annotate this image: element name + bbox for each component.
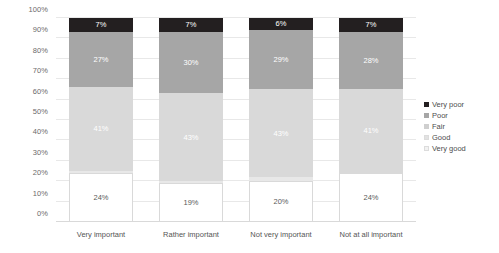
stacked-bar-chart: 0%10%20%30%40%50%60%70%80%90%100% 7%27%4… xyxy=(0,0,499,253)
legend-color-swatch xyxy=(424,113,429,118)
y-axis-tick-label: 60% xyxy=(33,86,48,95)
plot-area: 7%27%41%24%7%30%43%19%6%29%43%20%7%28%41… xyxy=(56,18,416,222)
x-axis-category-label: Rather important xyxy=(163,230,219,239)
bar-segment-fair[interactable]: 41% xyxy=(339,89,403,173)
x-axis-category-labels: Very importantRather importantNot very i… xyxy=(56,230,416,246)
bar-segment-fair[interactable]: 43% xyxy=(159,93,223,181)
legend-color-swatch xyxy=(424,124,429,129)
bar-segment-value-label: 43% xyxy=(273,130,288,138)
legend-item[interactable]: Good xyxy=(424,132,496,143)
bar-segment-very-poor[interactable]: 7% xyxy=(159,18,223,32)
bar-group[interactable]: 7%27%41%24% xyxy=(69,18,133,222)
y-axis-tick-label: 30% xyxy=(33,147,48,156)
legend-item-label: Good xyxy=(432,134,450,142)
bar-segment-very-poor[interactable]: 7% xyxy=(69,18,133,32)
bar-segment-value-label: 28% xyxy=(363,57,378,65)
y-axis: 0%10%20%30%40%50%60%70%80%90%100% xyxy=(0,18,52,222)
y-axis-tick-label: 40% xyxy=(33,127,48,136)
bar-series-container: 7%27%41%24%7%30%43%19%6%29%43%20%7%28%41… xyxy=(56,18,416,222)
bar-group[interactable]: 7%28%41%24% xyxy=(339,18,403,222)
bar-segment-value-label: 7% xyxy=(366,21,377,29)
x-axis-category-label: Not at all important xyxy=(340,230,403,239)
legend-item[interactable]: Very good xyxy=(424,143,496,154)
y-axis-tick-label: 50% xyxy=(33,107,48,116)
bar-segment-value-label: 41% xyxy=(93,125,108,133)
bar-segment-value-label: 6% xyxy=(276,20,287,28)
x-axis-category-label: Very important xyxy=(77,230,125,239)
bar-segment-poor[interactable]: 30% xyxy=(159,32,223,93)
bar-segment-value-label: 20% xyxy=(273,198,288,206)
y-axis-tick-label: 70% xyxy=(33,66,48,75)
bar-segment-value-label: 30% xyxy=(183,59,198,67)
bar-segment-poor[interactable]: 29% xyxy=(249,30,313,89)
stacked-bar[interactable]: 7%28%41%24% xyxy=(339,18,403,222)
y-axis-tick-label: 0% xyxy=(37,209,48,218)
bar-segment-very-good[interactable]: 24% xyxy=(339,173,403,222)
stacked-bar[interactable]: 7%30%43%19% xyxy=(159,18,223,222)
bar-segment-poor[interactable]: 28% xyxy=(339,32,403,89)
legend: Very poorPoorFairGoodVery good xyxy=(424,99,496,154)
bar-segment-very-poor[interactable]: 7% xyxy=(339,18,403,32)
bar-segment-value-label: 27% xyxy=(93,56,108,64)
bar-segment-value-label: 29% xyxy=(273,56,288,64)
bar-segment-value-label: 43% xyxy=(183,134,198,142)
y-axis-tick-label: 100% xyxy=(28,5,48,14)
legend-color-swatch xyxy=(424,146,429,151)
bar-segment-very-good[interactable]: 24% xyxy=(69,173,133,222)
y-axis-tick-label: 80% xyxy=(33,45,48,54)
legend-color-swatch xyxy=(424,135,429,140)
legend-item-label: Very poor xyxy=(432,101,464,109)
stacked-bar[interactable]: 7%27%41%24% xyxy=(69,18,133,222)
legend-item[interactable]: Fair xyxy=(424,121,496,132)
bar-segment-value-label: 24% xyxy=(363,194,378,202)
bar-segment-value-label: 7% xyxy=(186,21,197,29)
x-axis-category-label: Not very important xyxy=(250,230,311,239)
bar-segment-value-label: 7% xyxy=(96,21,107,29)
legend-item-label: Fair xyxy=(432,123,445,131)
y-axis-tick-label: 90% xyxy=(33,25,48,34)
y-axis-tick-label: 20% xyxy=(33,168,48,177)
legend-item[interactable]: Poor xyxy=(424,110,496,121)
bar-segment-poor[interactable]: 27% xyxy=(69,32,133,87)
bar-segment-value-label: 19% xyxy=(183,199,198,207)
bar-segment-very-good[interactable]: 19% xyxy=(159,183,223,222)
bar-group[interactable]: 7%30%43%19% xyxy=(159,18,223,222)
legend-item-label: Poor xyxy=(432,112,448,120)
legend-item-label: Very good xyxy=(432,145,466,153)
bar-segment-fair[interactable]: 41% xyxy=(69,87,133,171)
bar-segment-very-good[interactable]: 20% xyxy=(249,181,313,222)
bar-segment-value-label: 41% xyxy=(363,127,378,135)
bar-segment-very-poor[interactable]: 6% xyxy=(249,18,313,30)
bar-segment-fair[interactable]: 43% xyxy=(249,89,313,177)
legend-color-swatch xyxy=(424,102,429,107)
bar-group[interactable]: 6%29%43%20% xyxy=(249,18,313,222)
stacked-bar[interactable]: 6%29%43%20% xyxy=(249,18,313,222)
legend-item[interactable]: Very poor xyxy=(424,99,496,110)
y-axis-tick-label: 10% xyxy=(33,188,48,197)
bar-segment-value-label: 24% xyxy=(93,194,108,202)
